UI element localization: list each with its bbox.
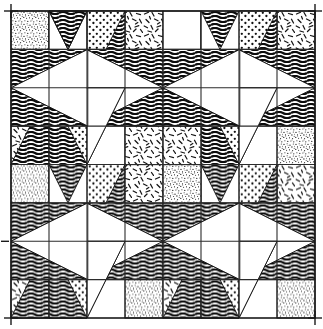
quilt-diagram-canvas <box>0 0 323 329</box>
center-patch <box>163 126 201 164</box>
corner-patch <box>125 11 163 49</box>
corner-patch <box>11 11 49 49</box>
corner-patch <box>125 280 163 318</box>
center-patch <box>163 165 201 203</box>
center-patch <box>125 165 163 203</box>
corner-patch <box>11 165 49 203</box>
quilt-figure <box>0 0 323 329</box>
corner-patch <box>277 11 315 49</box>
corner-patch <box>277 165 315 203</box>
corner-patch <box>277 126 315 164</box>
corner-patch <box>163 11 201 49</box>
center-patch <box>125 126 163 164</box>
corner-patch <box>277 280 315 318</box>
